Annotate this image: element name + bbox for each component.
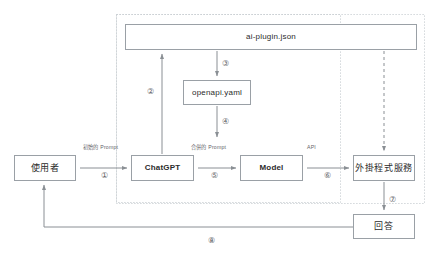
edge-label-initial-prompt: 初始的 Prompt (83, 145, 118, 150)
node-chatgpt: ChatGPT (131, 155, 194, 181)
step-number-4: ④ (222, 118, 229, 126)
node-chatgpt-label: ChatGPT (145, 164, 181, 172)
step-number-3: ③ (222, 60, 229, 68)
node-ai-plugin-json-label: ai-plugin.json (246, 33, 296, 41)
node-user-label: 使用者 (31, 164, 60, 173)
node-plugin-service: 外掛程式服務 (353, 155, 415, 181)
node-ai-plugin-json: ai-plugin.json (125, 24, 417, 50)
node-openapi-yaml-label: openapi.yaml (192, 89, 242, 97)
node-model-label: Model (259, 164, 283, 172)
step-number-5: ⑤ (211, 172, 218, 180)
step-number-6: ⑥ (324, 172, 331, 180)
node-answer-label: 回答 (374, 222, 393, 231)
step-number-7: ⑦ (389, 196, 396, 204)
edge-label-merged-prompt: 合併的 Prompt (191, 145, 226, 150)
edge-8-answer-to-user (44, 185, 353, 227)
step-number-8: ⑧ (208, 237, 215, 245)
node-answer: 回答 (353, 214, 415, 239)
node-plugin-service-label: 外掛程式服務 (355, 164, 413, 173)
step-number-1: ① (101, 172, 108, 180)
step-number-2: ② (147, 88, 154, 96)
edge-label-api: API (307, 145, 316, 150)
plugin-flow-diagram: ai-plugin.json openapi.yaml 使用者 ChatGPT … (0, 0, 437, 256)
node-model: Model (240, 155, 303, 181)
node-user: 使用者 (14, 155, 76, 181)
node-openapi-yaml: openapi.yaml (183, 80, 251, 105)
